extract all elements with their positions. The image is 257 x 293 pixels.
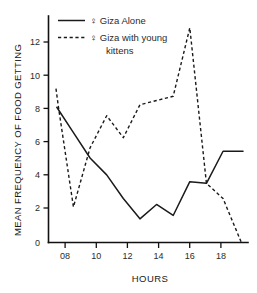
y-tick-label: 6	[35, 137, 40, 147]
x-tick-label: 12	[122, 251, 132, 261]
x-axis-ticks	[65, 243, 221, 249]
legend-label-1: ♀ Giza with young	[90, 32, 167, 43]
x-tick-label: 10	[91, 251, 101, 261]
y-tick-label: 8	[35, 104, 40, 114]
legend-label-1-cont: kittens	[106, 45, 134, 56]
y-axis-tick-labels: 12 10 8 6 4 2 0	[30, 37, 40, 247]
series-line-giza-alone	[57, 107, 243, 219]
y-tick-label: 12	[30, 37, 40, 47]
chart-legend: ♀ Giza Alone ♀ Giza with young kittens	[58, 15, 167, 56]
legend-label-0: ♀ Giza Alone	[90, 15, 146, 26]
chart-container: MEAN FREQUENCY OF FOOD GETTING 12 10 8 6…	[0, 0, 257, 293]
y-tick-label: 4	[35, 170, 40, 180]
series-line-giza-with-kittens	[56, 28, 241, 243]
y-tick-label: 10	[30, 71, 40, 81]
y-tick-label: 0	[35, 238, 40, 248]
x-tick-label: 14	[154, 251, 164, 261]
y-tick-label: 2	[35, 203, 40, 213]
y-axis-title: MEAN FREQUENCY OF FOOD GETTING	[12, 44, 23, 236]
x-axis-tick-labels: 08 10 12 14 16 18	[60, 251, 226, 261]
x-axis-title: HOURS	[132, 273, 168, 284]
line-chart-plot: MEAN FREQUENCY OF FOOD GETTING 12 10 8 6…	[0, 0, 257, 293]
x-tick-label: 08	[60, 251, 70, 261]
x-tick-label: 18	[216, 251, 226, 261]
x-tick-label: 16	[185, 251, 195, 261]
